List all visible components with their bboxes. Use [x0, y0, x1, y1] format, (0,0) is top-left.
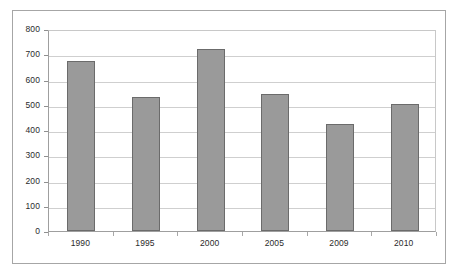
x-axis-tick-mark: [177, 232, 178, 236]
bar[interactable]: [132, 97, 160, 231]
y-axis-tick-label: 100: [6, 202, 40, 211]
y-axis-tick-label: 200: [6, 177, 40, 186]
bar[interactable]: [391, 104, 419, 232]
x-axis-tick-mark: [436, 232, 437, 236]
gridline: [49, 82, 435, 83]
x-axis-tick-mark: [242, 232, 243, 236]
y-axis-tick-label: 500: [6, 101, 40, 110]
bar-chart-figure: 0100200300400500600700800 19901995200020…: [0, 0, 462, 279]
x-axis-tick-mark: [307, 232, 308, 236]
y-axis-tick-label: 700: [6, 50, 40, 59]
y-axis-tick-label: 600: [6, 76, 40, 85]
gridline: [49, 132, 435, 133]
gridline: [49, 157, 435, 158]
x-axis-tick-label: 2010: [374, 238, 434, 248]
x-axis-tick-label: 1990: [50, 238, 110, 248]
gridline: [49, 56, 435, 57]
x-axis-tick-label: 2005: [244, 238, 304, 248]
x-axis-tick-label: 2009: [309, 238, 369, 248]
x-axis-tick-label: 1995: [115, 238, 175, 248]
gridline: [49, 208, 435, 209]
gridline: [49, 107, 435, 108]
y-axis-tick-label: 800: [6, 25, 40, 34]
bar[interactable]: [261, 94, 289, 231]
y-axis-tick-label: 400: [6, 126, 40, 135]
bar[interactable]: [67, 61, 95, 231]
x-axis-tick-mark: [48, 232, 49, 236]
y-axis-tick-label: 0: [6, 227, 40, 236]
bar[interactable]: [326, 124, 354, 231]
x-axis-tick-mark: [371, 232, 372, 236]
y-axis-tick-label: 300: [6, 151, 40, 160]
x-axis-tick-mark: [113, 232, 114, 236]
bar[interactable]: [197, 49, 225, 231]
plot-area: [48, 30, 436, 232]
gridline: [49, 183, 435, 184]
x-axis-tick-label: 2000: [180, 238, 240, 248]
